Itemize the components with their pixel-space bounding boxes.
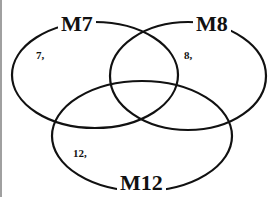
set-label-m7: M7 [58,13,96,35]
region-label-m12: 12, [73,148,87,159]
set-m8-ellipse [110,22,266,130]
venn-diagram: M7 M8 M12 7, 8, 12, [0,0,270,197]
set-label-m8: M8 [193,13,231,35]
region-label-m7: 7, [36,50,44,61]
set-label-m12: M12 [117,172,166,194]
set-m7-ellipse [12,22,178,128]
region-label-m8: 8, [184,50,192,61]
